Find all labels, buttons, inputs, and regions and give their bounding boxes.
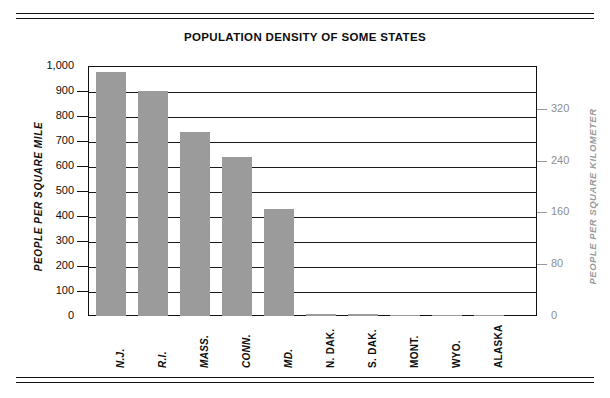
top-rule-lower	[16, 18, 594, 19]
y-axis-left-tick-mark	[77, 91, 88, 92]
bars-layer	[88, 66, 537, 316]
bar	[264, 209, 294, 317]
x-axis-label: N.J.	[116, 338, 126, 368]
y-axis-left-tick-label: 900	[0, 84, 74, 96]
bottom-rule-upper	[16, 377, 594, 378]
bar	[138, 91, 168, 316]
y-axis-left-tick-mark	[77, 266, 88, 267]
y-axis-right-tick-label: 0	[551, 309, 557, 321]
y-axis-left-tick-label: 400	[0, 209, 74, 221]
y-axis-right-tick-mark	[537, 109, 547, 110]
y-axis-left-tick-label: 300	[0, 234, 74, 246]
y-axis-left-tick-label: 0	[0, 309, 74, 321]
y-axis-right-tick-label: 320	[551, 102, 569, 114]
y-axis-left-tick-label: 100	[0, 284, 74, 296]
y-axis-right-tick-mark	[537, 212, 547, 213]
y-axis-left-tick-mark	[77, 241, 88, 242]
bar	[222, 157, 252, 316]
bottom-rule-lower	[16, 382, 594, 383]
y-axis-left-tick-mark	[77, 166, 88, 167]
y-axis-right-tick-label: 240	[551, 154, 569, 166]
x-axis-label: MD.	[284, 338, 294, 368]
x-axis-label: S. DAK.	[368, 338, 378, 368]
x-axis-label: R.I.	[158, 338, 168, 368]
y-axis-left-tick-label: 800	[0, 109, 74, 121]
y-axis-left-tick-mark	[77, 216, 88, 217]
y-axis-left-tick-label: 700	[0, 134, 74, 146]
top-rule-upper	[16, 13, 594, 14]
x-axis-label: WYO.	[452, 338, 462, 368]
y-axis-left-tick-label: 500	[0, 184, 74, 196]
y-axis-right-tick-label: 160	[551, 205, 569, 217]
y-axis-right-tick-mark	[537, 161, 547, 162]
bar	[96, 72, 126, 316]
y-axis-right-tick-mark	[537, 264, 547, 265]
y-axis-left-tick-mark	[77, 191, 88, 192]
x-axis-labels: N.J.R.I.MASS.CONN.MD.N. DAK.S. DAK.MONT.…	[88, 316, 537, 378]
y-axis-left-tick-label: 200	[0, 259, 74, 271]
y-axis-right-title: PEOPLE PER SQUARE KILOMETER	[587, 97, 598, 297]
bar	[180, 132, 210, 316]
x-axis-label: CONN.	[242, 338, 252, 368]
y-axis-left-tick-mark	[77, 141, 88, 142]
x-axis-label: MONT.	[410, 338, 420, 368]
y-axis-left-tick-mark	[77, 291, 88, 292]
y-axis-right-tick-label: 80	[551, 257, 563, 269]
y-axis-left-tick-label: 1,000	[0, 59, 74, 71]
chart-title: POPULATION DENSITY OF SOME STATES	[0, 31, 610, 43]
y-axis-left-tick-label: 600	[0, 159, 74, 171]
x-axis-label: N. DAK.	[326, 338, 336, 368]
x-axis-label: MASS.	[200, 338, 210, 368]
x-axis-label: ALASKA	[494, 338, 504, 368]
y-axis-left-tick-mark	[77, 116, 88, 117]
